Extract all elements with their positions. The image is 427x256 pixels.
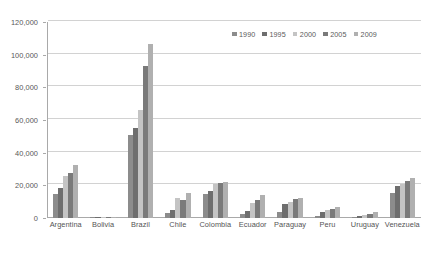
x-axis-tick-label: Colombia bbox=[199, 220, 231, 229]
bar-paraguay-2009[interactable] bbox=[298, 198, 303, 218]
y-axis-tick-mark bbox=[43, 55, 46, 56]
bar-uruguay-2009[interactable] bbox=[373, 212, 378, 218]
y-axis-tick-mark bbox=[43, 218, 46, 219]
bar-bolivia-2009[interactable] bbox=[111, 217, 116, 218]
x-axis-tick-label: Chile bbox=[169, 220, 186, 229]
y-axis-tick-label: 40,000 bbox=[15, 148, 43, 157]
bar-group-bolivia bbox=[84, 22, 121, 218]
bar-venezuela-2009[interactable] bbox=[410, 178, 415, 218]
gridline bbox=[48, 20, 421, 21]
bar-chart: 19901995200020052009 020,00040,00060,000… bbox=[0, 0, 427, 256]
bars-layer bbox=[47, 22, 421, 218]
bar-argentina-2009[interactable] bbox=[73, 165, 78, 218]
x-axis-tick-label: Bolivia bbox=[92, 220, 114, 229]
y-axis: 020,00040,00060,00080,000100,000120,000 bbox=[0, 22, 43, 218]
y-axis-tick-mark bbox=[43, 22, 46, 23]
bar-ecuador-2009[interactable] bbox=[260, 195, 265, 218]
bar-group-argentina bbox=[47, 22, 84, 218]
x-axis-tick-label: Peru bbox=[320, 220, 336, 229]
bar-group-ecuador bbox=[234, 22, 271, 218]
x-axis-tick-label: Uruguay bbox=[351, 220, 379, 229]
bar-group-brazil bbox=[122, 22, 159, 218]
y-axis-tick-mark bbox=[43, 185, 46, 186]
x-axis-tick-label: Brazil bbox=[131, 220, 150, 229]
bar-colombia-2009[interactable] bbox=[223, 182, 228, 218]
bar-chile-2009[interactable] bbox=[186, 193, 191, 218]
y-axis-tick-mark bbox=[43, 120, 46, 121]
x-axis-tick-label: Paraguay bbox=[274, 220, 306, 229]
y-axis-tick-label: 0 bbox=[34, 214, 43, 223]
bar-group-paraguay bbox=[271, 22, 308, 218]
x-axis-tick-label: Venezuela bbox=[385, 220, 420, 229]
y-axis-tick-label: 60,000 bbox=[15, 116, 43, 125]
y-axis-tick-mark bbox=[43, 153, 46, 154]
bar-peru-2009[interactable] bbox=[335, 207, 340, 218]
bar-group-uruguay bbox=[346, 22, 383, 218]
bar-group-peru bbox=[309, 22, 346, 218]
y-axis-tick-label: 20,000 bbox=[15, 181, 43, 190]
x-axis-tick-label: Argentina bbox=[50, 220, 82, 229]
bar-group-venezuela bbox=[384, 22, 421, 218]
bar-group-chile bbox=[159, 22, 196, 218]
x-axis-tick-label: Ecuador bbox=[239, 220, 267, 229]
bar-group-colombia bbox=[197, 22, 234, 218]
y-axis-tick-label: 120,000 bbox=[11, 18, 43, 27]
y-axis-tick-label: 100,000 bbox=[11, 50, 43, 59]
y-axis-tick-label: 80,000 bbox=[15, 83, 43, 92]
y-axis-tick-mark bbox=[43, 87, 46, 88]
bar-brazil-2009[interactable] bbox=[148, 44, 153, 218]
x-axis: ArgentinaBoliviaBrazilChileColombiaEcuad… bbox=[47, 220, 421, 236]
